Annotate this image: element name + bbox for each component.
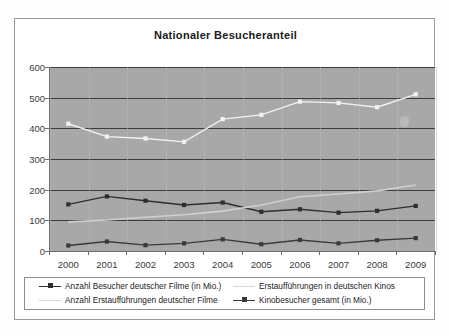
series-line [68,94,415,142]
legend-label: Kinobesucher gesamt (in Mio.) [259,295,372,305]
y-axis-tick-label: 600 [15,62,45,73]
x-axis-tick-label: 2000 [58,259,79,270]
series-marker [143,243,147,247]
legend-item[interactable]: Anzahl Besucher deutscher Filme (in Mio.… [39,281,221,291]
series-marker [143,136,147,140]
x-axis-tick-label: 2008 [367,259,388,270]
x-axis-tick [435,251,436,255]
minor-gridline [436,67,437,251]
series-marker [414,204,418,208]
x-axis-tick-label: 2006 [289,259,310,270]
legend-label: Erstaufführungen in deutschen Kinos [259,281,395,291]
x-axis-tick [281,251,282,255]
x-axis-tick [319,251,320,255]
chart-title: Nationaler Besucheranteil [15,29,436,41]
series-marker [182,140,186,144]
legend-swatch [233,296,255,305]
series-marker [414,92,418,96]
series-marker [105,194,109,198]
series-marker [66,243,70,247]
x-axis-tick [358,251,359,255]
series-line [68,185,415,222]
plot-area [49,67,435,251]
x-axis-tick-label: 2001 [96,259,117,270]
x-axis-tick-label: 2005 [251,259,272,270]
series-marker [298,207,302,211]
series-marker [221,200,225,204]
series-line [68,196,415,212]
y-axis-labels: 0100200300400500600 [15,67,45,251]
x-axis-tick [396,251,397,255]
series-marker [221,237,225,241]
x-axis-tick [88,251,89,255]
legend-label: Anzahl Besucher deutscher Filme (in Mio.… [65,281,221,291]
series-marker [259,113,263,117]
series-marker [66,122,70,126]
legend-row-2: Anzahl Erstaufführungen deutscher FilmeK… [25,295,424,310]
series-marker [375,238,379,242]
chart-screenshot: Nationaler Besucheranteil 01002003004005… [0,0,449,336]
chart-frame: Nationaler Besucheranteil 01002003004005… [14,18,435,320]
y-axis-tick-label: 500 [15,92,45,103]
series-marker [66,202,70,206]
x-axis-tick [165,251,166,255]
x-axis-tick [242,251,243,255]
legend-item[interactable]: Erstaufführungen in deutschen Kinos [233,281,395,291]
legend-swatch [233,282,255,291]
x-axis-tick [126,251,127,255]
y-axis-tick-label: 400 [15,123,45,134]
legend-item[interactable]: Anzahl Erstaufführungen deutscher Filme [39,295,218,305]
legend-swatch [39,296,61,305]
x-axis-tick [49,251,50,255]
series-marker [375,105,379,109]
series-marker [259,242,263,246]
x-axis-tick [203,251,204,255]
y-axis-tick-label: 200 [15,184,45,195]
series-marker [143,199,147,203]
series-marker [336,241,340,245]
chart-legend: Anzahl Besucher deutscher Filme (in Mio.… [24,277,425,310]
chart-lines [49,67,435,251]
series-marker [375,209,379,213]
series-marker [182,203,186,207]
series-marker [105,239,109,243]
x-axis-tick-label: 2009 [405,259,426,270]
series-marker [182,241,186,245]
y-axis-tick-label: 100 [15,215,45,226]
series-marker [298,238,302,242]
x-axis-tick-label: 2004 [212,259,233,270]
series-marker [259,210,263,214]
series-marker [336,101,340,105]
series-marker [336,211,340,215]
series-marker [105,135,109,139]
series-marker [298,100,302,104]
x-axis-tick-label: 2002 [135,259,156,270]
x-axis-tick-label: 2003 [174,259,195,270]
series-marker [414,236,418,240]
scan-artifact [400,116,409,127]
legend-row-1: Anzahl Besucher deutscher Filme (in Mio.… [25,281,424,296]
y-axis-tick-label: 0 [15,246,45,257]
legend-item[interactable]: Kinobesucher gesamt (in Mio.) [233,295,372,305]
legend-swatch [39,282,61,291]
series-marker [221,117,225,121]
y-axis-tick-label: 300 [15,154,45,165]
series-line [68,238,415,245]
legend-label: Anzahl Erstaufführungen deutscher Filme [65,295,218,305]
x-axis-tick-label: 2007 [328,259,349,270]
